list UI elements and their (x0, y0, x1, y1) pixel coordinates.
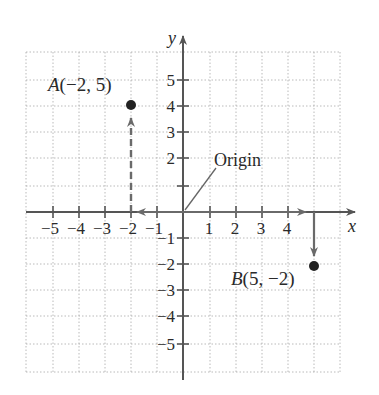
x-tick-label: −3 (93, 219, 111, 238)
x-tick-label: −2 (119, 219, 137, 238)
x-tick-label: 3 (257, 219, 266, 238)
y-tick-label: −3 (157, 281, 175, 300)
point-b-label: B(5, −2) (231, 268, 294, 290)
y-tick-label: −2 (157, 255, 175, 274)
y-tick-label: 5 (167, 71, 176, 90)
coordinate-plane-diagram: −5 −4 −3 −2 −1 1 2 3 4 5 4 3 2 −1 −2 −3 … (0, 0, 379, 395)
point-a-label: A(−2, 5) (46, 74, 111, 96)
y-tick-label: 3 (167, 123, 176, 142)
y-tick-label: 2 (167, 149, 176, 168)
origin-label: Origin (214, 150, 261, 170)
y-tick-label: −4 (157, 307, 176, 326)
y-tick-label: −5 (157, 335, 175, 354)
point-a (126, 100, 136, 110)
y-axis-label: y (166, 28, 176, 48)
x-tick-label: 2 (231, 219, 240, 238)
x-tick-label: −4 (67, 219, 86, 238)
x-axis-label: x (347, 216, 356, 236)
x-tick-label: 1 (205, 219, 214, 238)
y-tick-label: 4 (167, 97, 176, 116)
y-tick-label: −1 (157, 229, 175, 248)
x-tick-label: 4 (283, 219, 292, 238)
point-b (309, 261, 319, 271)
origin-leader-line (185, 168, 216, 210)
x-tick-label: −5 (41, 219, 59, 238)
